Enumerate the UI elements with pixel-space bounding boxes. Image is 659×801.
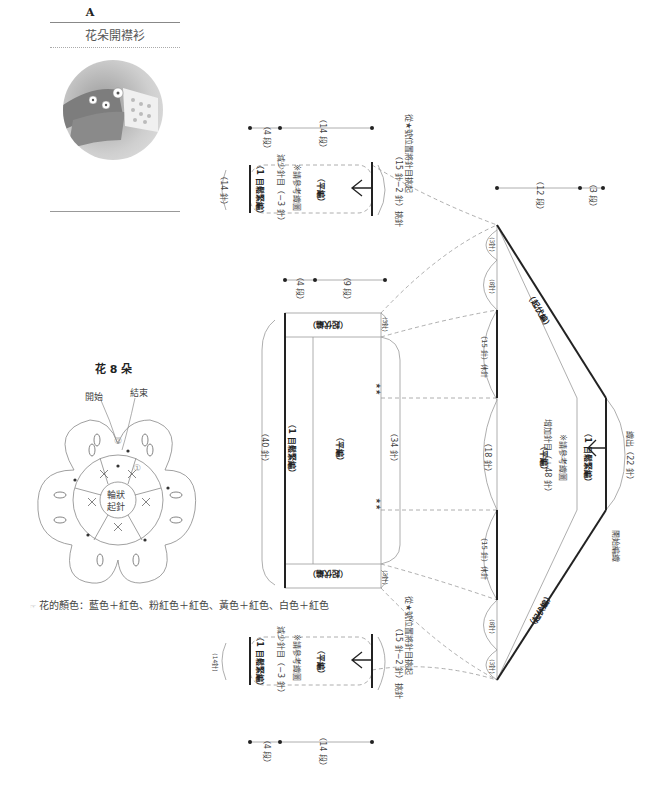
sleeve-top-width: （14 針） (219, 172, 230, 209)
sleeve-bottom-decrease: 減少針目（−3 針） (276, 626, 287, 696)
sleeve-top-rows-a: （4 段） (262, 122, 273, 154)
flower-count-title: 花 8 朵 (95, 360, 132, 376)
back-small-top: (3針) (381, 317, 390, 332)
yoke-band: （1 目鬆緊編） (583, 429, 594, 485)
sleeve-bottom-rows-a: （4 段） (262, 736, 273, 768)
back-width: （40 針） (260, 429, 271, 466)
star-marker-bottom: ★★ (374, 498, 382, 511)
flower-color-legend: ☞ 花的顏色：藍色＋紅色、粉紅色＋紅色、黃色＋紅色、白色＋紅色 (30, 597, 329, 612)
start-label: 開始 (85, 390, 103, 403)
sleeve-bottom-width: (14針) (211, 653, 220, 671)
yoke-seg-2: (8針) (488, 279, 497, 294)
back-rows-a: （4 段） (295, 273, 306, 305)
sleeve-bottom-band: （1 目鬆緊編） (255, 633, 266, 689)
back-rows-b: （9 段） (342, 273, 353, 305)
yoke-seg-4: （18 針） (483, 439, 494, 476)
sleeve-bottom-decrease-note: ※請參考織圖 (292, 634, 303, 681)
sleeve-bottom-pickup-note: 從★號位置將針目挑起 (404, 596, 415, 675)
round-2-marker: ② (114, 436, 122, 446)
legend-text: 花的顏色：藍色＋紅色、粉紅色＋紅色、黃色＋紅色、白色＋紅色 (39, 600, 329, 611)
yoke-seg-5: （15 針）休針 (480, 534, 490, 580)
yoke-rows-b: （3 段） (588, 180, 599, 212)
star-marker-top: ★★ (374, 383, 382, 396)
sleeve-top-decrease-note: ※請參考織圖 (292, 164, 303, 211)
sleeve-top-rows-b: （14 段） (318, 115, 329, 152)
back-edge-top: （起伏編） (308, 320, 348, 331)
center-label-2: 起針 (107, 500, 125, 513)
sleeve-top-body: （平編） (316, 174, 327, 206)
sleeve-top-band: （1 目鬆緊編） (255, 161, 266, 217)
yoke-increase: 增加針目（＋48 針） (543, 419, 554, 496)
yoke-seg-1: (3針) (488, 237, 497, 252)
yoke-increase-note: ※請參考織圖 (558, 434, 569, 481)
yoke-cast-on: 織出（22 針） (625, 431, 636, 484)
yoke-seg-6: (8針) (488, 619, 497, 634)
yoke-start: 開始編織 (611, 530, 622, 562)
sleeve-bottom-rows-b: （14 段） (318, 733, 329, 770)
yoke-rows-a: （12 段） (535, 177, 546, 214)
end-label: 結束 (130, 386, 148, 399)
note-icon: ☞ (30, 603, 39, 611)
sleeve-top-decrease: 減少針目（−3 針） (276, 154, 287, 224)
yoke-seg-3: （15 針）休針 (480, 332, 490, 378)
back-body: （平編） (335, 433, 346, 465)
back-band: （1 目鬆緊編） (287, 420, 298, 476)
yoke-seg-7: (3針) (488, 659, 497, 674)
back-small-bottom: (3針) (381, 570, 390, 585)
round-1-marker: ① (133, 463, 141, 473)
back-edge-bottom: （起伏編） (308, 569, 348, 580)
back-inner-width: （34 針） (389, 429, 400, 466)
sleeve-top-pickup-note: 從★號位置將針目挑起 (404, 114, 415, 193)
sleeve-bottom-body: （平編） (316, 646, 327, 678)
